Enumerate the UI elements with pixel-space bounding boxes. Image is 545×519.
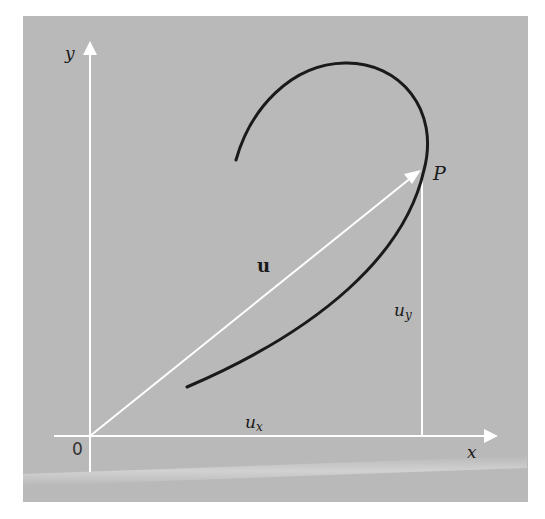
trajectory-curve [187,63,428,387]
vector-u-label: u [257,257,270,275]
x-axis-arrow-icon [484,429,498,443]
uy-base: u [394,300,405,320]
vector-u-line [90,177,412,436]
y-axis-label: y [65,45,75,62]
y-axis-arrow-icon [83,41,97,55]
ux-base: u [245,412,256,432]
uy-subscript: y [405,308,412,322]
point-p-label: P [433,164,446,183]
x-axis-label: x [467,444,477,461]
ux-subscript: x [256,420,263,434]
glare-band [23,456,527,486]
ux-label: ux [245,414,263,433]
origin-label: 0 [72,441,83,458]
uy-label: uy [394,302,412,321]
